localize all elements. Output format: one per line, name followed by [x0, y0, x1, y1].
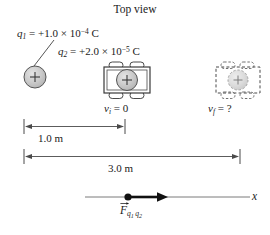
dimension-3m — [24, 149, 240, 164]
q1-leader-line — [34, 40, 54, 66]
cart-final-wheel-top-left — [221, 62, 235, 69]
cart-final — [216, 62, 260, 99]
physics-figure-top-view: Top view q1 = +1.0 × 10−4 C q2 = +2.0 × … — [0, 0, 270, 235]
dimension-3m-arrowhead-left — [25, 154, 32, 159]
dimension-1m-arrowhead-right — [117, 124, 124, 129]
force-vector-arrowhead — [157, 192, 168, 202]
dimension-3m-arrowhead-right — [232, 154, 239, 159]
cart-final-wheel-top-right — [240, 62, 254, 69]
dimension-1m — [24, 119, 125, 134]
x-axis-group — [85, 192, 250, 202]
fixed-charge-q1 — [24, 66, 46, 88]
dimension-1m-arrowhead-left — [25, 124, 32, 129]
figure-graphics — [0, 0, 270, 235]
cart-initial — [104, 62, 150, 99]
